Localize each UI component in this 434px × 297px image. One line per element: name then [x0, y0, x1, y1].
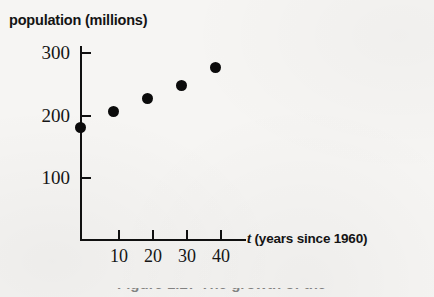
- data-point: [210, 62, 221, 73]
- x-tick-label-10: 10: [104, 247, 134, 265]
- x-tick-label-30: 30: [172, 247, 202, 265]
- data-point: [75, 122, 86, 133]
- x-axis-label: t (years since 1960): [247, 230, 367, 247]
- data-point: [108, 106, 119, 117]
- data-point: [142, 93, 153, 104]
- x-tick-label-20: 20: [138, 247, 168, 265]
- y-tick-mark-100: [82, 177, 91, 179]
- y-tick-label-200: 200: [18, 106, 70, 125]
- y-tick-label-100: 100: [18, 168, 70, 187]
- figure-caption-text: Figure 1.27 The growth of the: [117, 288, 326, 292]
- y-axis-label: population (millions): [9, 12, 147, 28]
- x-tick-mark-20: [152, 230, 154, 239]
- x-axis-label-text: (years since 1960): [255, 231, 368, 246]
- y-axis-line: [80, 46, 82, 241]
- x-tick-mark-10: [118, 230, 120, 239]
- x-tick-mark-30: [186, 230, 188, 239]
- x-axis-label-variable: t: [247, 230, 251, 246]
- data-point: [176, 80, 187, 91]
- y-tick-mark-200: [82, 115, 91, 117]
- x-tick-label-40: 40: [206, 247, 236, 265]
- y-tick-label-300: 300: [18, 43, 70, 62]
- x-tick-mark-40: [220, 230, 222, 239]
- x-axis-line: [80, 239, 246, 241]
- scatter-chart: population (millions) 300 200 100 10 20 …: [0, 0, 434, 297]
- figure-page: population (millions) 300 200 100 10 20 …: [0, 0, 434, 297]
- figure-caption: Figure 1.27 The growth of the: [0, 288, 434, 297]
- y-tick-mark-300: [82, 52, 91, 54]
